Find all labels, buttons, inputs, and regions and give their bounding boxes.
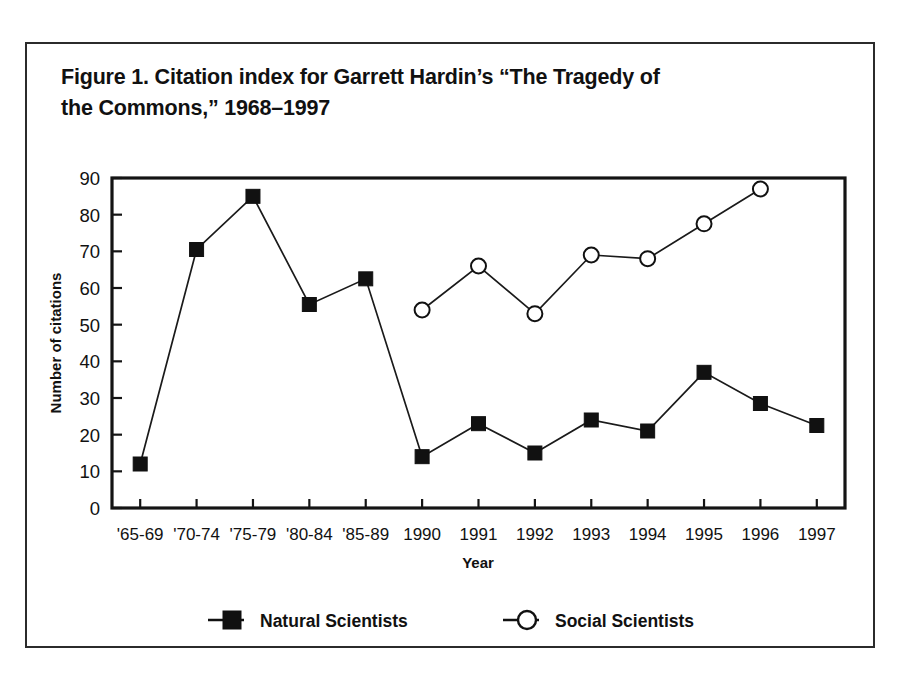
data-point-marker-square: [472, 417, 486, 431]
data-point-marker-square: [584, 413, 598, 427]
data-point-marker-circle: [584, 248, 599, 263]
y-tick-label: 40: [79, 351, 100, 372]
x-tick-label: 1996: [742, 525, 780, 544]
data-point-marker-square: [246, 189, 260, 203]
legend-label: Social Scientists: [555, 611, 694, 631]
y-tick-label: 90: [79, 168, 100, 189]
data-point-marker-circle: [697, 216, 712, 231]
y-tick-label: 10: [79, 461, 100, 482]
data-point-marker-square: [528, 446, 542, 460]
data-point-marker-square: [133, 457, 147, 471]
chart-legend: Natural ScientistsSocial Scientists: [208, 611, 694, 631]
x-tick-label: '85-89: [342, 525, 389, 544]
x-axis-tick-labels: '65-69'70-74'75-79'80-84'85-891990199119…: [117, 525, 836, 544]
x-axis-title: Year: [462, 554, 494, 571]
y-tick-label: 70: [79, 241, 100, 262]
series-social-scientists: [415, 182, 768, 322]
data-point-marker-circle: [640, 251, 655, 266]
y-tick-label: 50: [79, 315, 100, 336]
data-point-marker-square: [415, 450, 429, 464]
data-point-marker-circle: [527, 306, 542, 321]
x-tick-label: '80-84: [286, 525, 333, 544]
data-point-marker-square: [190, 243, 204, 257]
series-natural-scientists: [133, 189, 824, 471]
x-tick-label: '70-74: [173, 525, 220, 544]
data-point-marker-circle: [471, 259, 486, 274]
y-tick-label: 0: [90, 498, 100, 519]
x-tick-label: 1993: [572, 525, 610, 544]
citation-index-line-chart: 0102030405060708090 '65-69'70-74'75-79'8…: [27, 44, 877, 650]
legend-marker-circle: [518, 611, 536, 629]
legend-marker-square: [223, 611, 241, 629]
data-point-marker-circle: [415, 303, 430, 318]
x-tick-label: 1992: [516, 525, 554, 544]
plot-frame-box: [112, 178, 845, 508]
x-tick-label: '65-69: [117, 525, 164, 544]
data-point-marker-square: [302, 298, 316, 312]
y-tick-label: 20: [79, 425, 100, 446]
data-point-marker-circle: [753, 182, 768, 197]
data-point-marker-square: [810, 419, 824, 433]
legend-label: Natural Scientists: [260, 611, 408, 631]
data-point-marker-square: [753, 397, 767, 411]
y-tick-label: 30: [79, 388, 100, 409]
y-axis-tick-labels: 0102030405060708090: [79, 168, 100, 519]
x-tick-label: 1990: [403, 525, 441, 544]
data-point-marker-square: [641, 424, 655, 438]
x-tick-label: 1994: [629, 525, 667, 544]
x-tick-label: '75-79: [230, 525, 277, 544]
data-point-marker-square: [359, 272, 373, 286]
x-tick-label: 1995: [685, 525, 723, 544]
data-point-marker-square: [697, 365, 711, 379]
chart-plot-area: 0102030405060708090 '65-69'70-74'75-79'8…: [27, 44, 877, 650]
y-tick-label: 60: [79, 278, 100, 299]
figure-frame: Figure 1. Citation index for Garrett Har…: [25, 42, 875, 648]
x-tick-label: 1997: [798, 525, 836, 544]
y-axis-title: Number of citations: [47, 273, 64, 414]
y-tick-label: 80: [79, 205, 100, 226]
x-tick-label: 1991: [460, 525, 498, 544]
